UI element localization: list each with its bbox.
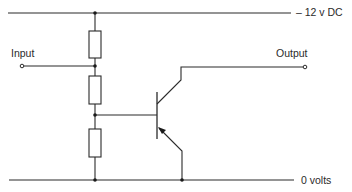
resistor-r3 [89, 129, 101, 157]
emitter-arrow-icon [158, 127, 166, 134]
circuit-diagram: – 12 v DC 0 volts Input Output [0, 0, 352, 192]
output-terminal [303, 65, 307, 69]
input-terminal [20, 64, 24, 68]
output-label: Output [276, 48, 308, 59]
resistor-r1 [89, 31, 101, 58]
supply-label: – 12 v DC [296, 7, 343, 18]
emitter-wire [159, 128, 182, 180]
junction-dot [93, 113, 97, 117]
junction-dot [93, 178, 97, 182]
junction-dot [93, 11, 97, 15]
circuit-schematic [0, 0, 352, 192]
junction-dot [180, 178, 184, 182]
resistor-r2 [89, 76, 101, 104]
junction-dot [93, 64, 97, 68]
input-label: Input [11, 48, 34, 59]
ground-label: 0 volts [301, 175, 331, 186]
collector-wire [157, 67, 303, 104]
